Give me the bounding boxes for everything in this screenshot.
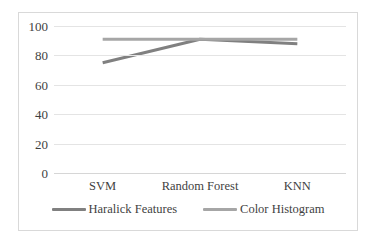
y-tick-label: 80 xyxy=(35,49,48,62)
y-tick-label: 20 xyxy=(35,137,48,150)
gridline-0 xyxy=(54,173,346,174)
chart-legend: Haralick FeaturesColor Histogram xyxy=(19,202,357,217)
y-tick-label: 60 xyxy=(35,78,48,91)
x-tick-label-svm: SVM xyxy=(54,179,151,194)
legend-label: Haralick Features xyxy=(89,202,178,217)
gridline-80 xyxy=(54,55,346,56)
legend-swatch-icon xyxy=(52,208,86,211)
gridline-20 xyxy=(54,144,346,145)
chart-container: 020406080100 SVMRandom ForestKNN Haralic… xyxy=(18,12,358,231)
gridline-40 xyxy=(54,114,346,115)
plot-area: 020406080100 xyxy=(54,26,346,173)
legend-item-color-histogram[interactable]: Color Histogram xyxy=(203,202,324,217)
legend-label: Color Histogram xyxy=(240,202,324,217)
x-axis-labels: SVMRandom ForestKNN xyxy=(54,179,346,194)
y-tick-label: 40 xyxy=(35,108,48,121)
gridline-100 xyxy=(54,26,346,27)
series-line-haralick-features xyxy=(103,39,298,63)
series-lines xyxy=(54,26,346,173)
y-tick-label: 0 xyxy=(42,167,49,180)
legend-swatch-icon xyxy=(203,208,237,211)
x-tick-label-knn: KNN xyxy=(249,179,346,194)
x-tick-label-random-forest: Random Forest xyxy=(151,179,248,194)
legend-item-haralick-features[interactable]: Haralick Features xyxy=(52,202,178,217)
y-tick-label: 100 xyxy=(29,20,49,33)
gridline-60 xyxy=(54,85,346,86)
